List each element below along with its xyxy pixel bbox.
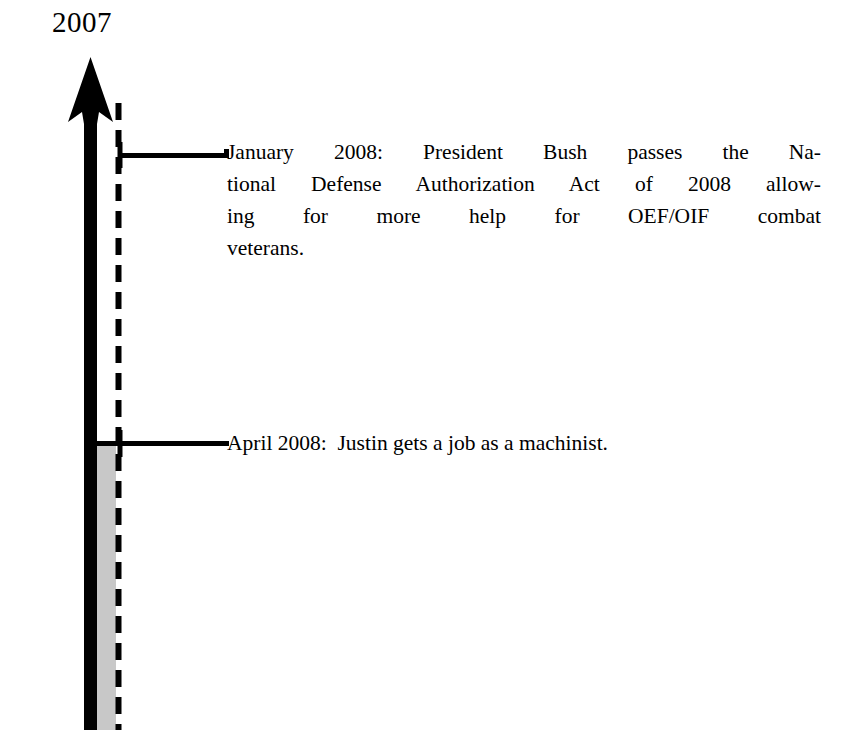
event-line: January 2008: President Bush passes the … [227,136,821,168]
timeline-axis-shaft [84,110,97,730]
event-line: April 2008: Justin gets a job as a machi… [227,427,821,459]
event-description-april-2008: April 2008: Justin gets a job as a machi… [227,427,821,459]
shaded-duration-band [97,443,116,730]
timeline-arrow-icon [68,57,113,124]
timeline-figure: 2007 January 2008: President Bush passes… [0,0,842,730]
event-line: tional Defense Authorization Act of 2008… [227,168,821,200]
event-line: ing for more help for OEF/OIF combat [227,200,821,232]
event-line: veterans. [227,232,821,264]
event-description-january-2008: January 2008: President Bush passes the … [227,136,821,264]
timeline-axis [0,0,842,730]
connector-january-2008 [118,142,229,168]
